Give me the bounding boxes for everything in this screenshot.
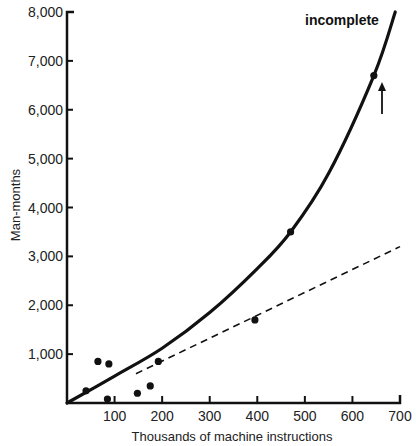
- y-tick-label: 1,000: [28, 346, 63, 362]
- linear-trend-line: [136, 247, 400, 374]
- y-axis-title: Man-months: [8, 168, 23, 241]
- data-point: [134, 390, 141, 397]
- x-tick-label: 400: [246, 408, 270, 424]
- y-tick-label: 4,000: [28, 200, 63, 216]
- x-tick-label: 100: [103, 408, 127, 424]
- y-tick-label: 8,000: [28, 4, 63, 20]
- x-tick-label: 700: [388, 408, 412, 424]
- y-tick-label: 7,000: [28, 53, 63, 69]
- data-point: [287, 228, 294, 235]
- data-point: [370, 72, 377, 79]
- data-point: [82, 387, 89, 394]
- x-tick-label: 600: [341, 408, 365, 424]
- y-tick-label: 6,000: [28, 102, 63, 118]
- data-point: [94, 358, 101, 365]
- x-tick-label: 500: [293, 408, 317, 424]
- x-tick-label: 300: [198, 408, 222, 424]
- x-axis-title: Thousands of machine instructions: [132, 429, 333, 444]
- data-point: [155, 358, 162, 365]
- incomplete-annotation: incomplete: [305, 12, 379, 28]
- axes: [67, 12, 400, 403]
- y-tick-label: 5,000: [28, 151, 63, 167]
- y-tick-label: 3,000: [28, 248, 63, 264]
- data-point: [104, 395, 111, 402]
- y-tick-label: 2,000: [28, 297, 63, 313]
- data-point: [251, 316, 258, 323]
- data-points: [82, 72, 377, 403]
- x-axis-ticks: 100200300400500600700: [103, 396, 412, 424]
- chart: 1,0002,0003,0004,0005,0006,0007,0008,000…: [0, 0, 416, 446]
- arrow-up-icon: [378, 82, 386, 114]
- data-point: [105, 360, 112, 367]
- fitted-curve: [67, 12, 395, 403]
- x-tick-label: 200: [150, 408, 174, 424]
- data-point: [147, 382, 154, 389]
